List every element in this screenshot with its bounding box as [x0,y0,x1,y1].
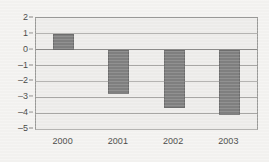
y-axis-tick-label: –3 [18,91,28,101]
x-axis-tick-label: 2001 [108,136,128,146]
y-axis-tick-label: 0 [23,44,28,54]
y-axis-tick-label: 1 [23,28,28,38]
y-axis-tick-label: 2 [23,12,28,22]
x-axis: 2000200120022003 [35,133,258,153]
bar-chart: 210–1–2–3–4–5 2000200120022003 [0,0,269,162]
x-axis-tick-label: 2003 [218,136,238,146]
x-axis-tick-label: 2000 [53,136,73,146]
plot-area [35,17,258,130]
y-axis-tick-label: –1 [18,60,28,70]
y-axis-tick-mark [29,112,33,113]
y-axis-tick-label: –2 [18,75,28,85]
y-axis-tick-mark [29,80,33,81]
gridline [36,129,257,130]
y-axis-tick-mark [29,64,33,65]
bar-2000 [53,34,74,50]
y-axis-tick-mark [29,48,33,49]
y-axis-tick-mark [29,32,33,33]
y-axis-tick-label: –4 [18,107,28,117]
y-axis-tick-label: –5 [18,123,28,133]
x-axis-tick-label: 2002 [163,136,183,146]
y-axis-tick-mark [29,128,33,129]
bar-2003 [219,50,240,115]
y-axis-tick-mark [29,17,33,18]
bar-2001 [108,50,129,94]
y-axis: 210–1–2–3–4–5 [0,17,33,130]
bar-2002 [164,50,185,108]
y-axis-tick-mark [29,96,33,97]
